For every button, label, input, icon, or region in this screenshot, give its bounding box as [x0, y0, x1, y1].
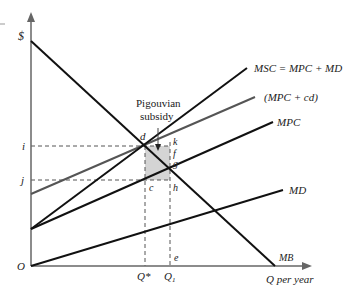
- subsidy-annotation-line2: subsidy: [140, 110, 174, 122]
- point-c-label: c: [149, 182, 154, 193]
- q-star-label: Q*: [137, 270, 151, 282]
- mpc-cd-label: (MPC + cd): [264, 91, 318, 104]
- point-e-label: e: [174, 252, 179, 263]
- y-axis-label: $: [18, 29, 24, 43]
- q1-label-sub: 1: [172, 276, 176, 284]
- pigouvian-subsidy-chart: MSC = MPC + MD (MPC + cd) MPC MD MB $ O …: [0, 0, 352, 299]
- point-k-label: k: [173, 136, 178, 147]
- mb-label: MB: [278, 252, 293, 263]
- msc-label: MSC = MPC + MD: [253, 62, 342, 74]
- q1-label-main: Q: [164, 270, 172, 282]
- x-axis-label: Q per year: [266, 273, 314, 285]
- price-j-label: j: [19, 174, 24, 186]
- md-label: MD: [288, 184, 306, 196]
- point-h-label: h: [173, 182, 178, 193]
- y-axis-arrow-icon: [27, 12, 35, 22]
- q1-label: Q1: [164, 270, 175, 284]
- shaded-subsidy-region: [145, 146, 170, 180]
- point-d-label: d: [140, 130, 146, 142]
- x-axis-arrow-icon: [302, 262, 312, 270]
- price-i-label: i: [22, 140, 25, 152]
- axes: [27, 12, 312, 270]
- subsidy-annotation-line1: Pigouvian: [136, 97, 181, 109]
- point-g-label: g: [173, 158, 178, 169]
- origin-label: O: [17, 260, 25, 272]
- x-axis-label-text: Q per year: [266, 273, 314, 285]
- mpc-label: MPC: [276, 116, 301, 128]
